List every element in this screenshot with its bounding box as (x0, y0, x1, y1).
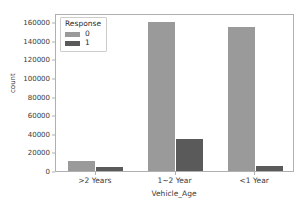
y-tick-label: 20000 (28, 150, 50, 157)
x-tick-mark (254, 172, 255, 175)
y-tick-label: 40000 (28, 131, 50, 138)
y-axis-ticks: 0200004000060000800001000001200001400001… (0, 14, 55, 172)
legend-item: 0 (65, 30, 101, 39)
bar (228, 27, 255, 171)
y-tick-label: 0 (46, 169, 50, 176)
x-tick-label: >2 Years (78, 177, 111, 185)
y-tick-label: 140000 (23, 38, 50, 45)
legend-label: 1 (85, 39, 90, 47)
legend-swatch (65, 32, 80, 37)
bar (256, 166, 283, 171)
x-tick-mark (175, 172, 176, 175)
bar (176, 139, 203, 171)
x-tick-label: <1 Year (239, 177, 268, 185)
bar-chart-figure: count 0200004000060000800001000001200001… (0, 0, 308, 206)
x-tick-label: 1~2 Year (157, 177, 191, 185)
legend: Response 01 (60, 17, 107, 52)
y-tick-label: 80000 (28, 94, 50, 101)
x-tick-mark (95, 172, 96, 175)
y-tick-label: 100000 (23, 76, 50, 83)
bar (96, 167, 123, 171)
x-axis-label: Vehicle_Age (151, 189, 196, 198)
legend-swatch (65, 41, 80, 46)
x-axis-ticks: >2 Years1~2 Year<1 Year (55, 172, 294, 188)
y-tick-label: 60000 (28, 113, 50, 120)
legend-item: 1 (65, 39, 101, 48)
legend-title: Response (65, 20, 101, 28)
bar (148, 22, 175, 171)
y-tick-label: 160000 (23, 20, 50, 27)
legend-entries: 01 (65, 30, 101, 48)
y-tick-label: 120000 (23, 57, 50, 64)
bar (68, 161, 95, 171)
legend-label: 0 (85, 30, 90, 38)
